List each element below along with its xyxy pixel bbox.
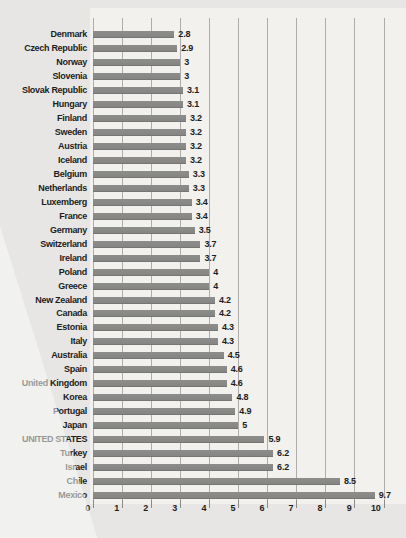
axis-tick-label: 0: [68, 503, 90, 513]
axis-tick: [325, 500, 326, 508]
bar: [93, 492, 375, 499]
value-label: 3.3: [193, 183, 205, 193]
value-label: 9.7: [379, 490, 391, 500]
bar: [93, 380, 227, 387]
axis-tick: [209, 500, 210, 508]
scanned-chart-page: Denmark2.8Czech Republic2.9Norway3Sloven…: [0, 0, 406, 538]
category-label: Netherlands: [0, 183, 87, 193]
bar: [93, 450, 273, 457]
category-label: Belgium: [0, 169, 87, 179]
category-label: Canada: [0, 308, 87, 318]
category-label: Sweden: [0, 127, 87, 137]
value-label: 3: [184, 71, 189, 81]
bar: [93, 31, 174, 38]
value-label: 3.4: [196, 211, 208, 221]
value-label: 4.2: [219, 308, 231, 318]
category-label: New Zealand: [0, 295, 87, 305]
category-label: Finland: [0, 113, 87, 123]
category-label: Slovak Republic: [0, 85, 87, 95]
bar: [93, 101, 183, 108]
axis-tick: [354, 500, 355, 508]
bar: [93, 408, 235, 415]
bar: [93, 338, 218, 345]
value-label: 3: [184, 57, 189, 67]
value-label: 5.9: [268, 434, 280, 444]
axis-tick-label: 3: [155, 503, 177, 513]
bar: [93, 87, 183, 94]
value-label: 4.9: [239, 406, 251, 416]
value-label: 4.5: [228, 350, 240, 360]
bar: [93, 115, 186, 122]
value-label: 3.2: [190, 127, 202, 137]
gridline: [384, 18, 385, 500]
value-label: 3.1: [187, 85, 199, 95]
gridline: [238, 18, 239, 500]
category-label: Ireland: [0, 253, 87, 263]
category-label: Germany: [0, 225, 87, 235]
bar: [93, 73, 180, 80]
category-label: Japan: [0, 420, 87, 430]
gridline: [267, 18, 268, 500]
bar: [93, 227, 195, 234]
axis-tick-label: 4: [184, 503, 206, 513]
category-label: France: [0, 211, 87, 221]
bar: [93, 297, 215, 304]
bar: [93, 185, 189, 192]
category-label: Australia: [0, 350, 87, 360]
axis-tick: [238, 500, 239, 508]
category-label: Korea: [0, 392, 87, 402]
axis-tick-label: 1: [97, 503, 119, 513]
category-label: Poland: [0, 267, 87, 277]
bar: [93, 171, 189, 178]
bar: [93, 283, 209, 290]
category-label: Turkey: [0, 448, 87, 458]
bar: [93, 422, 238, 429]
category-label: Italy: [0, 336, 87, 346]
axis-tick: [122, 500, 123, 508]
category-label: Israel: [0, 462, 87, 472]
bar: [93, 199, 192, 206]
bar: [93, 241, 200, 248]
bar: [93, 45, 177, 52]
category-label: Mexico: [0, 490, 87, 500]
axis-tick-label: 9: [329, 503, 351, 513]
category-label: Czech Republic: [0, 43, 87, 53]
category-label: Greece: [0, 281, 87, 291]
category-label: Switzerland: [0, 239, 87, 249]
category-label: United Kingdom: [0, 378, 87, 388]
category-label: Estonia: [0, 322, 87, 332]
bar: [93, 129, 186, 136]
bar: [93, 269, 209, 276]
axis-tick-label: 10: [359, 503, 381, 513]
value-label: 3.1: [187, 99, 199, 109]
value-label: 3.2: [190, 155, 202, 165]
category-label: Portugal: [0, 406, 87, 416]
category-label: Austria: [0, 141, 87, 151]
value-label: 3.2: [190, 141, 202, 151]
bar: [93, 310, 215, 317]
axis-tick: [384, 500, 385, 508]
value-label: 5: [242, 420, 247, 430]
value-label: 4: [213, 281, 218, 291]
value-label: 3.4: [196, 197, 208, 207]
category-label: Spain: [0, 364, 87, 374]
value-label: 4.3: [222, 322, 234, 332]
category-label: Slovenia: [0, 71, 87, 81]
value-label: 3.5: [199, 225, 211, 235]
value-label: 2.8: [178, 29, 190, 39]
gridline: [296, 18, 297, 500]
axis-tick-label: 7: [271, 503, 293, 513]
category-label: Iceland: [0, 155, 87, 165]
value-label: 4.6: [231, 364, 243, 374]
value-label: 6.2: [277, 448, 289, 458]
bar: [93, 157, 186, 164]
category-label: Norway: [0, 57, 87, 67]
category-label: Hungary: [0, 99, 87, 109]
bar: [93, 213, 192, 220]
value-label: 3.3: [193, 169, 205, 179]
category-label: Luxemberg: [0, 197, 87, 207]
value-label: 4.8: [236, 392, 248, 402]
bar: [93, 464, 273, 471]
category-label: Chile: [0, 476, 87, 486]
bar: [93, 436, 264, 443]
